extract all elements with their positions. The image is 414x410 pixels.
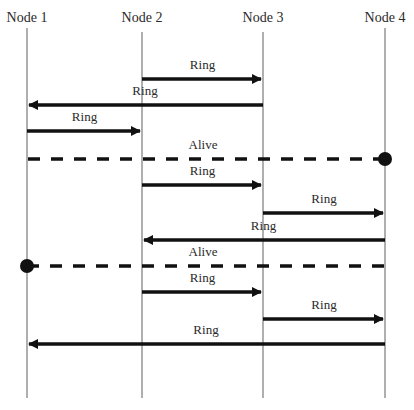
message-label: Ring [311,191,337,206]
message-ring: Ring [29,83,263,105]
message-label: Ring [72,109,98,124]
message-ring: Ring [142,163,261,185]
sequence-diagram: Node 1Node 2Node 3Node 4 RingRingRingAli… [0,0,414,410]
message-ring: Ring [263,297,383,319]
message-alive: Alive [20,244,385,273]
lifeline-n3: Node 3 [243,10,284,398]
message-ring: Ring [142,57,261,79]
message-ring: Ring [27,109,140,131]
message-label: Alive [189,244,218,259]
message-label: Ring [190,163,216,178]
message-label: Ring [190,270,216,285]
message-ring: Ring [144,218,385,240]
message-label: Ring [190,57,216,72]
origin-dot-icon [20,259,34,273]
node-label: Node 1 [7,10,48,25]
message-ring: Ring [142,270,261,292]
diagram-canvas: Node 1Node 2Node 3Node 4 RingRingRingAli… [0,0,414,410]
message-alive: Alive [27,137,392,166]
origin-dot-icon [378,152,392,166]
lifeline-n1: Node 1 [7,10,48,398]
message-ring: Ring [263,191,383,213]
message-label: Ring [311,297,337,312]
message-ring: Ring [29,322,385,344]
message-label: Ring [132,83,158,98]
messages: RingRingRingAliveRingRingRingAliveRingRi… [20,57,392,344]
message-label: Ring [193,322,219,337]
lifeline-n2: Node 2 [122,10,163,398]
message-label: Ring [251,218,277,233]
node-label: Node 3 [243,10,284,25]
message-label: Alive [189,137,218,152]
lifeline-n4: Node 4 [365,10,406,398]
node-label: Node 4 [365,10,406,25]
node-label: Node 2 [122,10,163,25]
